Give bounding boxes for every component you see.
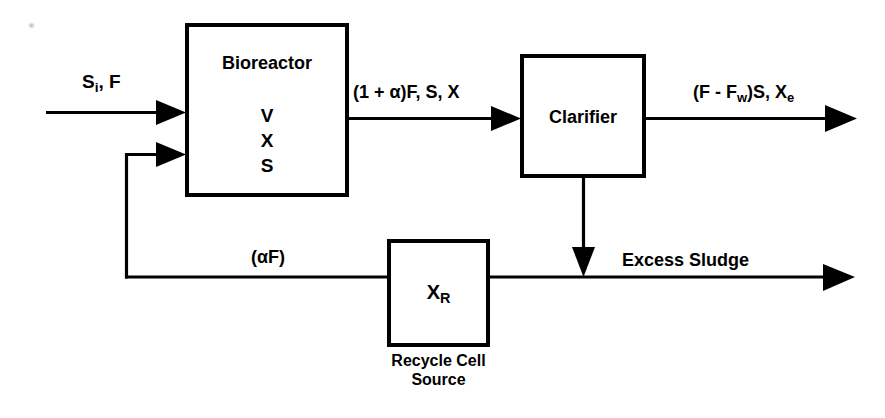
effluent-label-sub1: w bbox=[737, 90, 747, 105]
feed-label-base: S bbox=[82, 71, 95, 92]
clarifier-underflow-arrowhead bbox=[572, 247, 595, 277]
recycle-cell-symbol: XR bbox=[389, 282, 488, 302]
bioreactor-variable-x: X bbox=[187, 128, 347, 153]
clarifier-effluent-label: (F - Fw)S, Xe bbox=[693, 83, 794, 101]
effluent-label-part1: (F - F bbox=[693, 82, 737, 102]
feed-label-subscript: i bbox=[95, 80, 99, 95]
clarifier-title: Clarifier bbox=[522, 107, 644, 128]
bioreactor-outlet-arrowhead bbox=[491, 106, 521, 131]
recycle-caption-line-2: Source bbox=[358, 371, 519, 390]
recycle-return-arrowhead bbox=[156, 142, 186, 167]
feed-label-rest: , F bbox=[99, 71, 121, 92]
bioreactor-title: Bioreactor bbox=[187, 53, 347, 74]
recycle-caption-line-1: Recycle Cell bbox=[358, 352, 519, 371]
bioreactor-variable-s: S bbox=[187, 153, 347, 178]
recycle-cell-source-caption: Recycle Cell Source bbox=[358, 352, 519, 390]
bioreactor-variables: V X S bbox=[187, 103, 347, 178]
effluent-label-part2: )S, X bbox=[747, 82, 787, 102]
bioreactor-outlet-label: (1 + α)F, S, X bbox=[353, 83, 460, 101]
feed-arrowhead bbox=[156, 100, 186, 125]
clarifier-effluent-arrowhead bbox=[825, 105, 857, 132]
excess-sludge-arrowhead bbox=[823, 264, 855, 291]
recycle-flow-label: (αF) bbox=[251, 248, 285, 266]
diagram-canvas: Si, F Bioreactor V X S (1 + α)F, S, X Cl… bbox=[0, 0, 885, 418]
effluent-label-sub2: e bbox=[787, 90, 794, 105]
bioreactor-variable-v: V bbox=[187, 103, 347, 128]
recycle-symbol-subscript: R bbox=[440, 290, 450, 306]
recycle-symbol-base: X bbox=[427, 281, 440, 303]
excess-sludge-label: Excess Sludge bbox=[622, 251, 749, 269]
feed-stream-label: Si, F bbox=[82, 72, 121, 91]
